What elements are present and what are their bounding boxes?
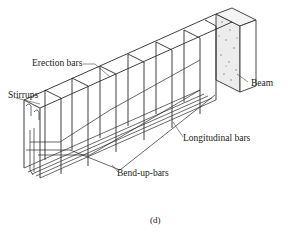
label-stirrups: Stirrups bbox=[8, 91, 38, 101]
beam-block bbox=[216, 8, 256, 92]
label-longitudinal-bars: Longitudinal bars bbox=[183, 134, 250, 144]
stirrups bbox=[24, 20, 216, 178]
label-bend-up-bars: Bend-up-bars bbox=[117, 169, 169, 179]
reinforcement-cage-diagram: Erection bars Stirrups Beam Longitudinal… bbox=[0, 0, 295, 234]
label-beam: Beam bbox=[251, 79, 273, 89]
cage-drawing bbox=[0, 0, 295, 234]
figure-caption: (d) bbox=[150, 216, 161, 225]
bend-up-bars bbox=[26, 60, 215, 175]
label-erection-bars: Erection bars bbox=[32, 59, 82, 69]
